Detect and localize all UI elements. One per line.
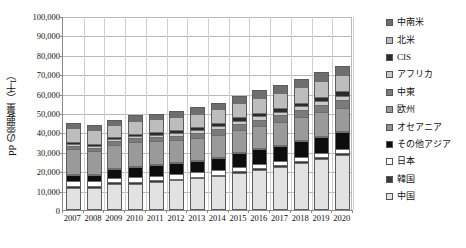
bar-segment[interactable] [129, 168, 142, 179]
bar-segment[interactable] [170, 181, 183, 209]
legend-item[interactable]: 中南米 [386, 14, 466, 31]
legend-item[interactable]: 中国 [386, 188, 466, 205]
bar-segment[interactable] [129, 185, 142, 209]
bar-segment[interactable] [274, 168, 287, 209]
bar-segment[interactable] [88, 152, 101, 176]
bar-slot[interactable] [167, 17, 188, 210]
bar-segment[interactable] [191, 139, 204, 161]
bar-segment[interactable] [212, 110, 225, 124]
stacked-bar[interactable] [169, 111, 184, 210]
bar-segment[interactable] [88, 131, 101, 144]
stacked-bar[interactable] [211, 103, 226, 210]
legend-item[interactable]: アフリカ [386, 66, 466, 83]
bar-segment[interactable] [315, 73, 328, 82]
bar-segment[interactable] [274, 147, 287, 162]
bar-slot[interactable] [125, 17, 146, 210]
bar-segment[interactable] [108, 185, 121, 209]
bar-segment[interactable] [336, 156, 349, 209]
bar-segment[interactable] [108, 146, 121, 169]
stacked-bar[interactable] [314, 72, 329, 210]
bar-segment[interactable] [170, 164, 183, 175]
bar-segment[interactable] [150, 142, 163, 165]
bar-segment[interactable] [150, 183, 163, 209]
bar-segment[interactable] [295, 118, 308, 141]
bar-slot[interactable] [229, 17, 250, 210]
bar-slot[interactable] [312, 17, 333, 210]
bar-segment[interactable] [150, 166, 163, 176]
stacked-bar[interactable] [273, 85, 288, 210]
bar-segment[interactable] [233, 104, 246, 118]
bar-slot[interactable] [332, 17, 353, 210]
legend-item[interactable]: 欧州 [386, 101, 466, 118]
stacked-bar[interactable] [294, 79, 309, 210]
bar-segment[interactable] [233, 174, 246, 210]
bar-segment[interactable] [253, 150, 266, 164]
bar-segment[interactable] [336, 67, 349, 76]
legend-item[interactable]: その他アジア [386, 136, 466, 153]
bar-segment[interactable] [315, 160, 328, 209]
bar-slot[interactable] [249, 17, 270, 210]
legend-item[interactable]: 日本 [386, 153, 466, 170]
bar-slot[interactable] [146, 17, 167, 210]
bar-segment[interactable] [315, 138, 328, 154]
bar-segment[interactable] [253, 91, 266, 99]
stacked-bar[interactable] [107, 120, 122, 210]
stacked-bar[interactable] [66, 123, 81, 210]
bar-segment[interactable] [233, 131, 246, 154]
bar-slot[interactable] [63, 17, 84, 210]
bar-segment[interactable] [170, 141, 183, 163]
bar-segment[interactable] [67, 189, 80, 209]
bar-segment[interactable] [295, 111, 308, 118]
bar-segment[interactable] [315, 82, 328, 98]
bar-segment[interactable] [129, 122, 142, 135]
bar-segment[interactable] [233, 154, 246, 167]
stacked-bar[interactable] [128, 115, 143, 210]
bar-segment[interactable] [67, 150, 80, 175]
stacked-bar[interactable] [87, 125, 102, 210]
bar-segment[interactable] [191, 179, 204, 209]
bar-segment[interactable] [253, 171, 266, 209]
bar-segment[interactable] [108, 126, 121, 138]
bar-segment[interactable] [274, 94, 287, 109]
bar-segment[interactable] [315, 113, 328, 136]
bar-segment[interactable] [88, 189, 101, 209]
bar-segment[interactable] [295, 88, 308, 103]
bar-segment[interactable] [212, 159, 225, 171]
bar-segment[interactable] [274, 123, 287, 146]
bar-slot[interactable] [104, 17, 125, 210]
bar-segment[interactable] [336, 76, 349, 92]
bar-slot[interactable] [270, 17, 291, 210]
bar-slot[interactable] [208, 17, 229, 210]
bar-slot[interactable] [187, 17, 208, 210]
bar-segment[interactable] [212, 104, 225, 111]
bar-segment[interactable] [315, 106, 328, 113]
stacked-bar[interactable] [149, 114, 164, 210]
bar-segment[interactable] [191, 162, 204, 173]
bar-segment[interactable] [67, 129, 80, 143]
stacked-bar[interactable] [232, 96, 247, 210]
bar-segment[interactable] [212, 177, 225, 209]
bar-segment[interactable] [108, 170, 121, 179]
bar-segment[interactable] [336, 109, 349, 133]
bar-segment[interactable] [274, 86, 287, 94]
bar-segment[interactable] [253, 99, 266, 114]
bar-segment[interactable] [295, 80, 308, 88]
bar-segment[interactable] [191, 115, 204, 128]
bar-segment[interactable] [336, 133, 349, 150]
bar-segment[interactable] [129, 143, 142, 167]
legend-item[interactable]: 韓国 [386, 171, 466, 188]
legend-item[interactable]: オセアニア [386, 118, 466, 135]
legend-item[interactable]: CIS [386, 49, 466, 66]
bar-segment[interactable] [212, 136, 225, 159]
legend-item[interactable]: 北米 [386, 31, 466, 48]
bar-segment[interactable] [233, 97, 246, 104]
bar-segment[interactable] [336, 101, 349, 109]
bar-slot[interactable] [291, 17, 312, 210]
bar-segment[interactable] [295, 142, 308, 158]
bar-segment[interactable] [150, 120, 163, 133]
bar-segment[interactable] [170, 118, 183, 131]
legend-item[interactable]: 中東 [386, 84, 466, 101]
stacked-bar[interactable] [190, 107, 205, 210]
stacked-bar[interactable] [335, 66, 350, 210]
bar-segment[interactable] [295, 164, 308, 209]
